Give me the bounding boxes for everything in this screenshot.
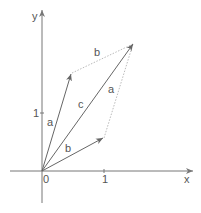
dotted-side-b bbox=[72, 44, 133, 73]
side-a-label: a bbox=[108, 83, 115, 95]
vector-b-label: b bbox=[65, 142, 71, 154]
y-tick-label: 1 bbox=[33, 107, 39, 119]
x-tick-label: 1 bbox=[102, 173, 108, 185]
vector-a-label: a bbox=[47, 116, 54, 128]
y-axis-label: y bbox=[32, 10, 38, 22]
origin-label: 0 bbox=[43, 173, 49, 185]
vector-c bbox=[42, 44, 133, 171]
side-b-label: b bbox=[94, 46, 100, 58]
vector-c-label: c bbox=[78, 98, 84, 110]
vector-b bbox=[42, 138, 103, 171]
x-axis-label: x bbox=[184, 173, 190, 185]
vector-diagram: y x 0 1 1 a b c b a bbox=[0, 0, 201, 213]
